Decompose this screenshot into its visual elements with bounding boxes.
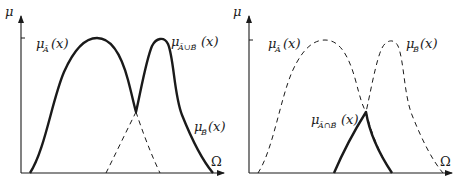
y-axis-label: μ: [233, 4, 241, 19]
svg-text:Ã: Ã: [42, 45, 49, 54]
svg-text:(x): (x): [341, 112, 358, 127]
curve-b-dashed-tail: [106, 112, 136, 173]
svg-text:Ã∩B̃: Ã∩B̃: [317, 121, 336, 130]
curve-b-dashed: [334, 41, 443, 173]
fuzzy-sets-diagram: μ Ω μ Ã (x) μ Ã∪B̃ (x) μ B̃ (x) μ Ω: [0, 0, 465, 187]
curve-a-dashed-tail: [136, 112, 160, 173]
svg-text:(x): (x): [208, 119, 225, 134]
svg-text:(x): (x): [51, 36, 68, 51]
svg-text:(x): (x): [283, 36, 300, 51]
label-mu-b: μ B̃ (x): [406, 36, 437, 54]
label-mu-intersection: μ Ã∩B̃ (x): [311, 112, 358, 130]
svg-text:B̃: B̃: [200, 128, 207, 137]
x-axis-label: Ω: [211, 154, 222, 169]
svg-text:(x): (x): [201, 34, 218, 49]
label-mu-a: μ Ã (x): [268, 36, 300, 54]
svg-text:B̃: B̃: [412, 45, 419, 54]
label-mu-a: μ Ã (x): [36, 36, 68, 54]
svg-text:Ã∪B̃: Ã∪B̃: [177, 43, 196, 52]
svg-text:Ã: Ã: [274, 45, 281, 54]
svg-text:(x): (x): [420, 36, 437, 51]
intersection-panel: μ Ω μ Ã (x) μ B̃ (x) μ Ã∩B̃ (x): [233, 4, 452, 173]
union-curve: [30, 38, 213, 173]
label-mu-union: μ Ã∪B̃ (x): [171, 34, 218, 52]
y-axis-label: μ: [5, 4, 13, 19]
x-axis-label: Ω: [440, 154, 451, 169]
union-panel: μ Ω μ Ã (x) μ Ã∪B̃ (x) μ B̃ (x): [5, 4, 225, 173]
label-mu-b: μ B̃ (x): [194, 119, 225, 137]
curve-a-dashed: [258, 40, 392, 173]
